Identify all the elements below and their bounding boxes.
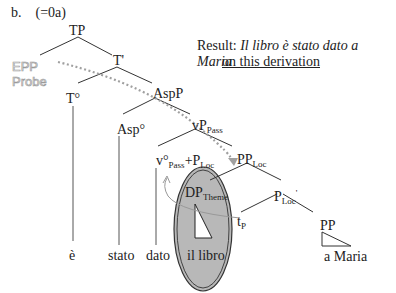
- result-prefix: Result:: [197, 38, 240, 53]
- node-v0-pass-ploc: v°Pass+PLoc: [156, 154, 214, 172]
- dp-sub: Theme: [203, 192, 228, 202]
- example-letter: b.: [11, 5, 22, 20]
- node-tp-trace: tP: [237, 215, 246, 233]
- node-ploc-bar: PLoc': [274, 186, 297, 208]
- leaf-il-libro: il libro: [187, 249, 225, 263]
- result-note: on this derivation: [222, 54, 320, 70]
- node-dp-theme: DPTheme: [185, 186, 228, 204]
- probe-label: Probe: [12, 75, 47, 89]
- vp-base: vP: [192, 118, 207, 133]
- example-label: b. (=0a): [11, 6, 66, 20]
- pploc-base: PP: [237, 152, 253, 167]
- v0-base: v°: [156, 153, 169, 168]
- plocbar-prime: ': [296, 188, 298, 198]
- leaf-dato: dato: [146, 249, 170, 263]
- v0-sub-loc: Loc: [200, 160, 214, 170]
- v0-sub-pass: Pass: [169, 160, 185, 170]
- leaf-e: è: [69, 249, 75, 263]
- pploc-sub: Loc: [253, 159, 267, 169]
- node-tp: TP: [69, 24, 85, 38]
- v0-plus-p: +P: [185, 153, 201, 168]
- node-aspp: AspP: [153, 87, 183, 101]
- node-pp-loc: PPLoc: [237, 153, 267, 171]
- trace-sub: P: [241, 221, 246, 231]
- dp-base: DP: [185, 185, 203, 200]
- leaf-stato: stato: [108, 249, 134, 263]
- node-pp: PP: [320, 219, 336, 233]
- epp-probe-arrow: [58, 62, 233, 162]
- plocbar-sub: Loc: [282, 196, 296, 206]
- node-vp-pass: vPPass: [192, 119, 223, 137]
- node-tbar: T': [113, 54, 124, 68]
- vp-sub: Pass: [207, 125, 223, 135]
- example-ref: (=0a): [36, 5, 66, 20]
- leaf-a-maria: a Maria: [324, 250, 367, 264]
- plocbar-base: P: [274, 189, 282, 204]
- node-t0: T°: [66, 92, 80, 106]
- epp-label: EPP: [12, 60, 38, 74]
- node-asp0: Asp°: [117, 123, 145, 137]
